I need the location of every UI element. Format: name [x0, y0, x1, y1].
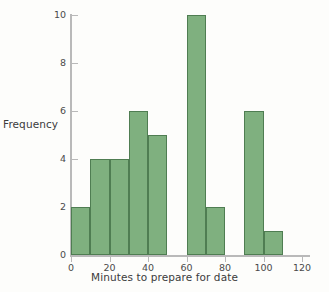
- y-tick-mark: [72, 15, 78, 16]
- x-tick-mark: [302, 257, 303, 262]
- histogram-bar: [148, 135, 167, 255]
- histogram-bar: [206, 207, 225, 255]
- x-tick-mark: [71, 257, 72, 262]
- histogram-bar: [71, 207, 90, 255]
- histogram-bar: [110, 159, 129, 255]
- y-tick-label: 4: [48, 153, 66, 164]
- histogram-bar: [187, 15, 206, 255]
- plot-area: 0246810 020406080100120: [0, 0, 329, 292]
- y-tick-label: 2: [48, 201, 66, 212]
- y-tick-mark: [72, 111, 78, 112]
- y-tick-label: 0: [48, 249, 66, 260]
- x-tick-mark: [110, 257, 111, 262]
- histogram-bar: [90, 159, 109, 255]
- histogram-bar: [244, 111, 263, 255]
- x-tick-mark: [148, 257, 149, 262]
- histogram-bar: [129, 111, 148, 255]
- histogram-chart: Frequency 0246810 020406080100120 Minute…: [0, 0, 329, 292]
- x-tick-mark: [225, 257, 226, 262]
- y-tick-label: 8: [48, 57, 66, 68]
- y-tick-mark: [72, 159, 78, 160]
- x-axis-label: Minutes to prepare for date: [0, 271, 329, 283]
- x-tick-mark: [264, 257, 265, 262]
- y-tick-label: 6: [48, 105, 66, 116]
- x-axis-line: [70, 255, 310, 257]
- y-tick-label: 10: [48, 9, 66, 20]
- x-tick-mark: [187, 257, 188, 262]
- y-tick-mark: [72, 63, 78, 64]
- histogram-bar: [264, 231, 283, 255]
